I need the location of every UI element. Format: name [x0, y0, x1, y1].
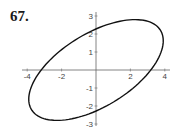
x-tick-label: 2 — [128, 72, 133, 81]
x-tick-label: -4 — [24, 72, 32, 81]
y-tick-label: -3 — [86, 120, 94, 129]
x-tick-label: -2 — [58, 72, 66, 81]
y-tick-label: 1 — [89, 48, 94, 57]
y-tick-label: -1 — [86, 84, 94, 93]
y-tick-label: -2 — [86, 102, 94, 111]
x-tick-label: 4 — [163, 72, 168, 81]
y-tick-label: 3 — [89, 12, 94, 21]
ellipse-plot: -4-224-3-2-1123 — [0, 0, 180, 134]
